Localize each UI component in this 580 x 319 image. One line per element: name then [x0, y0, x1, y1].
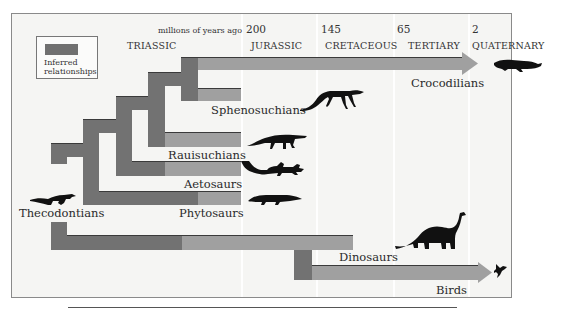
sauropod-silhouette-icon — [395, 212, 466, 249]
sphenosuchian-silhouette-icon — [300, 90, 364, 111]
crocodile-silhouette-icon — [494, 60, 542, 72]
thecodont-silhouette-icon — [30, 194, 76, 205]
aetosaur-silhouette-icon — [241, 161, 304, 176]
bird-silhouette-icon — [494, 264, 507, 278]
phytosaur-silhouette-icon — [248, 195, 302, 205]
rauisuchian-silhouette-icon — [247, 135, 307, 149]
bottom-rule — [68, 307, 457, 308]
